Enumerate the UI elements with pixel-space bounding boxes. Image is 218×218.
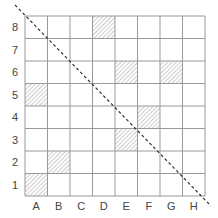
column-label-f: F <box>145 200 152 212</box>
column-label-b: B <box>55 200 62 212</box>
row-label-6: 6 <box>12 66 18 78</box>
row-label-5: 5 <box>12 89 18 101</box>
column-label-c: C <box>77 200 85 212</box>
row-label-1: 1 <box>12 179 18 191</box>
column-label-d: D <box>100 200 108 212</box>
shaded-cell-e6 <box>115 61 138 84</box>
row-label-4: 4 <box>12 111 18 123</box>
shaded-cell-b2 <box>48 151 71 174</box>
shaded-cell-a5 <box>25 84 48 107</box>
row-label-8: 8 <box>12 21 18 33</box>
row-labels: 12345678 <box>12 21 18 191</box>
row-label-7: 7 <box>12 44 18 56</box>
shaded-cell-f4 <box>138 106 161 129</box>
row-label-2: 2 <box>12 156 18 168</box>
column-labels: ABCDEFGH <box>33 200 198 212</box>
column-label-e: E <box>123 200 130 212</box>
grid-diagram: 12345678 ABCDEFGH <box>0 0 218 218</box>
row-label-3: 3 <box>12 134 18 146</box>
column-label-h: H <box>190 200 198 212</box>
shaded-cell-g6 <box>160 61 183 84</box>
shaded-cell-e3 <box>115 129 138 152</box>
shaded-cell-d8 <box>93 16 116 39</box>
column-label-g: G <box>167 200 176 212</box>
shaded-cell-a1 <box>25 174 48 197</box>
column-label-a: A <box>33 200 41 212</box>
